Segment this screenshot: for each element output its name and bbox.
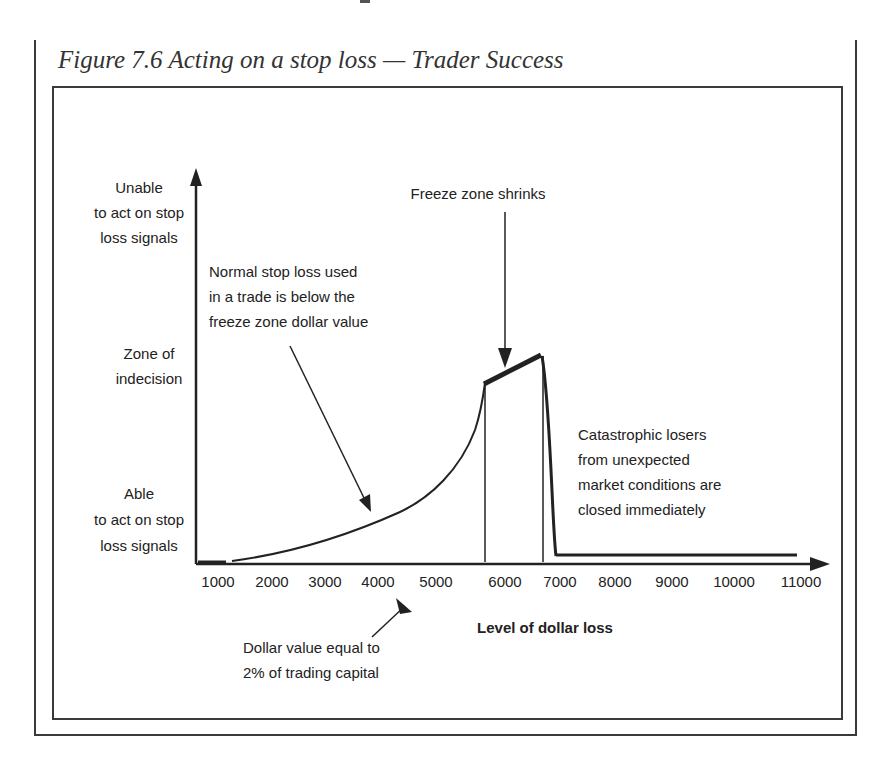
arrow-down-icon [498, 348, 512, 368]
x-axis-arrow-icon [810, 557, 830, 571]
svg-text:9000: 9000 [655, 573, 688, 590]
chart-canvas: Unable to act on stop loss signals Zone … [0, 0, 889, 765]
annotation-dollar-value: Dollar value equal to 2% of trading capi… [243, 598, 412, 681]
svg-text:6000: 6000 [488, 573, 521, 590]
svg-text:5000: 5000 [419, 573, 452, 590]
x-axis [196, 557, 830, 571]
svg-text:2000: 2000 [255, 573, 288, 590]
annotation-freeze-zone: Freeze zone shrinks [410, 185, 545, 368]
y-axis [190, 168, 202, 564]
svg-text:Catastrophic losers: Catastrophic losers [578, 426, 706, 443]
svg-text:1000: 1000 [201, 573, 234, 590]
svg-text:Zone of: Zone of [124, 345, 176, 362]
data-series-curve [198, 355, 797, 562]
arrow-down-right-icon [359, 494, 371, 512]
svg-text:3000: 3000 [308, 573, 341, 590]
svg-text:8000: 8000 [598, 573, 631, 590]
svg-text:Able: Able [124, 485, 154, 502]
svg-text:loss signals: loss signals [100, 229, 178, 246]
svg-text:2% of trading capital: 2% of trading capital [243, 664, 379, 681]
svg-text:10000: 10000 [713, 573, 755, 590]
svg-text:Dollar value equal to: Dollar value equal to [243, 639, 380, 656]
svg-text:freeze zone dollar value: freeze zone dollar value [209, 313, 368, 330]
y-label-able: Able to act on stop loss signals [94, 485, 184, 554]
svg-text:indecision: indecision [116, 370, 183, 387]
svg-text:Freeze zone shrinks: Freeze zone shrinks [410, 185, 545, 202]
svg-text:from unexpected: from unexpected [578, 451, 690, 468]
svg-text:to act on stop: to act on stop [94, 204, 184, 221]
annotation-catastrophic-losers: Catastrophic losers from unexpected mark… [578, 426, 721, 518]
svg-text:in a trade is below the: in a trade is below the [209, 288, 355, 305]
svg-text:to act on stop: to act on stop [94, 511, 184, 528]
y-label-indecision: Zone of indecision [116, 345, 183, 387]
svg-text:Unable: Unable [115, 179, 163, 196]
svg-text:4000: 4000 [361, 573, 394, 590]
y-axis-arrow-icon [190, 168, 202, 186]
x-axis-title: Level of dollar loss [477, 619, 613, 636]
svg-text:loss signals: loss signals [100, 537, 178, 554]
annotation-normal-stop-loss: Normal stop loss used in a trade is belo… [209, 263, 371, 512]
y-label-unable: Unable to act on stop loss signals [94, 179, 184, 246]
svg-text:Normal stop loss used: Normal stop loss used [209, 263, 357, 280]
svg-text:closed immediately: closed immediately [578, 501, 706, 518]
x-tick-labels: 1000 2000 3000 4000 5000 6000 7000 8000 … [201, 573, 821, 590]
svg-text:market conditions are: market conditions are [578, 476, 721, 493]
svg-text:11000: 11000 [781, 573, 822, 590]
svg-text:7000: 7000 [543, 573, 576, 590]
